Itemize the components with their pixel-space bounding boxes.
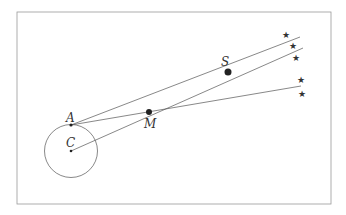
line-A-M xyxy=(71,86,301,125)
point-S xyxy=(225,69,232,76)
frame-border xyxy=(17,12,331,204)
star-icon: ★ xyxy=(298,89,306,99)
point-M xyxy=(146,109,152,115)
label-S: S xyxy=(221,55,229,69)
star-icon: ★ xyxy=(297,75,305,85)
line-C-S xyxy=(71,48,303,151)
label-A: A xyxy=(65,111,75,125)
line-A-S xyxy=(71,37,300,125)
star-icon: ★ xyxy=(289,41,297,51)
label-M: M xyxy=(143,117,157,131)
star-icon: ★ xyxy=(292,53,300,63)
label-C: C xyxy=(66,136,75,150)
geometry-diagram: A C M S ★ ★ ★ ★ ★ xyxy=(0,0,346,215)
diagram-canvas: A C M S ★ ★ ★ ★ ★ xyxy=(0,0,346,215)
star-icon: ★ xyxy=(282,30,290,40)
point-C xyxy=(70,150,73,153)
